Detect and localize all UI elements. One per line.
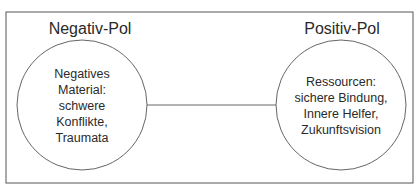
positive-line-4: Zukunftsvision — [286, 122, 396, 138]
negative-line-5: Traumata — [32, 130, 132, 146]
negative-pole-text: Negatives Material: schwere Konflikte, T… — [32, 66, 132, 146]
positive-line-2: sichere Bindung, — [286, 90, 396, 106]
positive-line-3: Innere Helfer, — [286, 106, 396, 122]
negative-pole-title: Negativ-Pol — [40, 20, 140, 38]
positive-line-1: Ressourcen: — [286, 74, 396, 90]
positive-pole-title: Positiv-Pol — [292, 20, 392, 38]
positive-pole-text: Ressourcen: sichere Bindung, Innere Helf… — [286, 74, 396, 138]
negative-line-4: Konflikte, — [32, 114, 132, 130]
negative-line-2: Material: — [32, 82, 132, 98]
negative-line-3: schwere — [32, 98, 132, 114]
negative-line-1: Negatives — [32, 66, 132, 82]
